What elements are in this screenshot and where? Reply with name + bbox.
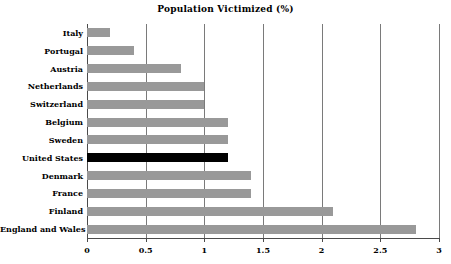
bar-finland — [87, 207, 333, 216]
x-tick-mark — [204, 238, 205, 242]
y-axis-label-belgium: Belgium — [0, 117, 83, 127]
bar-austria — [87, 64, 181, 73]
x-tick-mark — [439, 238, 440, 242]
bar-row — [87, 95, 439, 113]
bar-chart: Population Victimized (%) 00.511.522.53 … — [0, 0, 451, 264]
bar-row — [87, 220, 439, 238]
bar-united-states — [87, 153, 228, 162]
y-axis-label-sweden: Sweden — [0, 135, 83, 145]
y-axis-label-united-states: United States — [0, 153, 83, 163]
bar-france — [87, 189, 251, 198]
y-axis-label-france: France — [0, 188, 83, 198]
y-axis-label-finland: Finland — [0, 206, 83, 216]
x-tick-label: 0 — [84, 245, 90, 255]
bar-row — [87, 131, 439, 149]
bar-portugal — [87, 46, 134, 55]
bar-row — [87, 78, 439, 96]
y-axis-label-portugal: Portugal — [0, 46, 83, 56]
y-axis-label-austria: Austria — [0, 64, 83, 74]
bar-belgium — [87, 118, 228, 127]
x-tick-mark — [263, 238, 264, 242]
bar-row — [87, 185, 439, 203]
x-tick-label: 1.5 — [256, 245, 270, 255]
bar-row — [87, 149, 439, 167]
x-tick-label: 3 — [436, 245, 442, 255]
plot-area — [87, 24, 439, 238]
y-axis-label-netherlands: Netherlands — [0, 81, 83, 91]
bar-switzerland — [87, 100, 204, 109]
bar-denmark — [87, 171, 251, 180]
bar-netherlands — [87, 82, 204, 91]
x-tick-label: 0.5 — [139, 245, 153, 255]
x-tick-mark — [87, 238, 88, 242]
bar-italy — [87, 28, 110, 37]
bar-row — [87, 24, 439, 42]
y-axis-label-switzerland: Switzerland — [0, 99, 83, 109]
bar-england-and-wales — [87, 225, 416, 234]
bar-row — [87, 60, 439, 78]
bar-sweden — [87, 135, 228, 144]
x-tick-mark — [322, 238, 323, 242]
chart-title: Population Victimized (%) — [0, 4, 451, 14]
y-axis-label-italy: Italy — [0, 28, 83, 38]
bar-row — [87, 113, 439, 131]
bar-row — [87, 202, 439, 220]
x-tick-label: 1 — [202, 245, 208, 255]
y-axis-label-denmark: Denmark — [0, 171, 83, 181]
bar-row — [87, 167, 439, 185]
x-tick-mark — [380, 238, 381, 242]
x-tick-label: 2.5 — [373, 245, 387, 255]
x-tick-mark — [146, 238, 147, 242]
gridline-3 — [439, 24, 440, 238]
y-axis-label-england-and-wales: England and Wales — [0, 224, 83, 234]
bar-row — [87, 42, 439, 60]
x-tick-label: 2 — [319, 245, 325, 255]
